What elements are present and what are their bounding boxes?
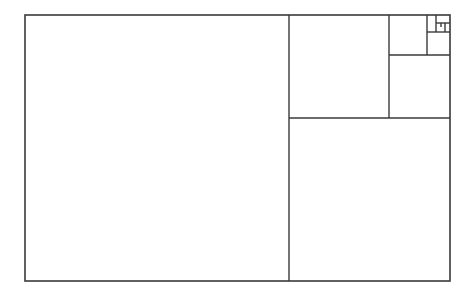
golden-rectangle-diagram: [0, 0, 472, 295]
outer-rectangle: [25, 15, 450, 281]
subdivision-lines: [289, 15, 450, 281]
